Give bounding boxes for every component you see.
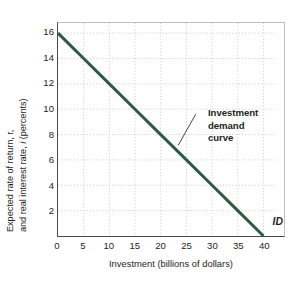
callout-line-2: demand bbox=[208, 120, 258, 133]
y-tick-label-2: 2 bbox=[34, 206, 54, 216]
y-axis-title-symbol-i: i bbox=[18, 142, 28, 144]
y-axis-title-line-2-pre: and real interest rate, bbox=[18, 144, 28, 232]
x-tick-label-30: 30 bbox=[199, 240, 225, 252]
y-tick-label-6: 6 bbox=[34, 155, 54, 165]
investment-demand-chart: Expected rate of return, r, and real int… bbox=[0, 0, 294, 283]
y-tick-label-16: 16 bbox=[34, 27, 54, 37]
investment-demand-curve-callout: Investmentdemandcurve bbox=[208, 107, 258, 145]
x-axis-tick-labels: 0510152025303540 bbox=[57, 240, 291, 254]
plot-area: Investmentdemandcurve ID bbox=[57, 22, 285, 237]
y-axis-title-container: Expected rate of return, r, and real int… bbox=[0, 0, 36, 240]
y-axis-title-line-2: and real interest rate, i (percents) bbox=[17, 6, 30, 232]
callout-line-1: Investment bbox=[208, 107, 258, 120]
curve-id-label: ID bbox=[273, 216, 283, 227]
x-tick-label-35: 35 bbox=[225, 240, 251, 252]
y-axis-title: Expected rate of return, r, and real int… bbox=[4, 6, 29, 232]
x-tick-label-40: 40 bbox=[251, 240, 277, 252]
y-tick-label-10: 10 bbox=[34, 104, 54, 114]
y-axis-title-line-2-post: (percents) bbox=[18, 98, 28, 141]
y-axis-title-line-1: Expected rate of return, r, bbox=[4, 6, 17, 232]
callout-line-3: curve bbox=[208, 132, 258, 145]
y-axis-tick-labels: 246810121416 bbox=[34, 0, 54, 246]
y-tick-label-8: 8 bbox=[34, 130, 54, 140]
y-tick-label-4: 4 bbox=[34, 181, 54, 191]
x-tick-label-25: 25 bbox=[174, 240, 200, 252]
x-tick-label-20: 20 bbox=[148, 240, 174, 252]
x-tick-label-5: 5 bbox=[70, 240, 96, 252]
y-tick-label-12: 12 bbox=[34, 78, 54, 88]
x-axis-title: Investment (billions of dollars) bbox=[57, 258, 285, 270]
x-tick-label-10: 10 bbox=[96, 240, 122, 252]
x-tick-label-15: 15 bbox=[122, 240, 148, 252]
y-tick-label-14: 14 bbox=[34, 53, 54, 63]
x-tick-label-0: 0 bbox=[44, 240, 70, 252]
